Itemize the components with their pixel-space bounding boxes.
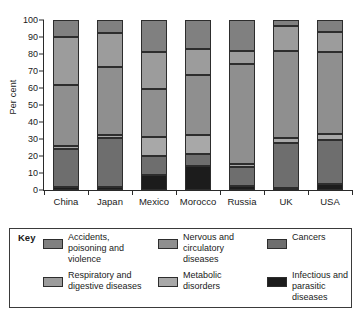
y-axis-tick-mark <box>39 122 44 123</box>
legend-item: Metabolic disorders <box>158 270 257 292</box>
y-axis-tick-mark <box>39 105 44 106</box>
bar-morocco <box>185 20 211 190</box>
y-axis-tick-mark <box>39 37 44 38</box>
bar-usa <box>317 20 343 190</box>
bar-segment <box>229 64 255 163</box>
bar-segment <box>97 135 123 138</box>
bar-segment <box>273 138 299 143</box>
legend-swatch <box>158 239 178 249</box>
bar-segment <box>97 187 123 190</box>
bar-japan <box>97 20 123 190</box>
legend-swatch <box>43 277 63 287</box>
bar-russia <box>229 20 255 190</box>
bar-segment <box>317 184 343 190</box>
bar-segment <box>185 75 211 135</box>
y-axis-tick-mark <box>39 156 44 157</box>
legend-swatch <box>158 277 178 287</box>
bar-segment <box>53 20 79 37</box>
legend-label: Nervous and circulatory diseases <box>183 232 257 266</box>
x-axis-tick-mark <box>220 190 221 195</box>
bar-segment <box>229 20 255 51</box>
x-axis-tick-mark <box>44 190 45 195</box>
bar-segment <box>53 149 79 186</box>
bar-segment <box>141 20 167 52</box>
bar-segment <box>141 137 167 156</box>
x-axis-tick-mark <box>176 190 177 195</box>
bar-segment <box>317 140 343 184</box>
bar-segment <box>141 175 167 190</box>
bar-segment <box>317 20 343 32</box>
legend-label: Accidents, poisoning and violence <box>68 232 142 266</box>
x-axis-tick-mark <box>352 190 353 195</box>
y-axis-tick-mark <box>39 71 44 72</box>
x-axis-tick-mark <box>132 190 133 195</box>
legend-label: Metabolic disorders <box>183 270 257 292</box>
bar-segment <box>185 20 211 49</box>
bar-segment <box>53 187 79 190</box>
bar-segment <box>97 138 123 187</box>
x-axis-line <box>43 190 352 191</box>
plot-area: 0102030405060708090100ChinaJapanMexicoMo… <box>44 20 352 190</box>
bar-segment <box>141 89 167 137</box>
bar-segment <box>97 33 123 67</box>
bar-segment <box>185 49 211 75</box>
x-axis-tick-mark <box>264 190 265 195</box>
bar-segment <box>53 85 79 145</box>
x-axis-tick-mark <box>308 190 309 195</box>
legend-title: Key <box>18 232 35 243</box>
bar-segment <box>317 52 343 134</box>
bar-segment <box>229 186 255 190</box>
bar-segment <box>317 32 343 52</box>
legend-swatch <box>43 239 63 249</box>
x-axis-tick-mark <box>88 190 89 195</box>
bar-segment <box>97 20 123 33</box>
legend-item: Accidents, poisoning and violence <box>43 232 142 266</box>
y-axis-tick-mark <box>39 173 44 174</box>
legend-item: Cancers <box>267 232 326 249</box>
y-axis-tick-mark <box>39 88 44 89</box>
legend-label: Respiratory and digestive diseases <box>68 270 142 292</box>
bar-segment <box>53 37 79 85</box>
bar-segment <box>273 143 299 188</box>
bar-segment <box>53 146 79 149</box>
bar-segment <box>273 51 299 139</box>
bar-segment <box>185 135 211 155</box>
legend-item: Infectious and parasitic diseases <box>267 270 351 304</box>
legend-item: Nervous and circulatory diseases <box>158 232 257 266</box>
y-axis-tick-mark <box>39 54 44 55</box>
bar-china <box>53 20 79 190</box>
stacked-bar-chart: Per cent 0102030405060708090100ChinaJapa… <box>0 0 361 222</box>
legend-label: Cancers <box>292 232 326 243</box>
bar-segment <box>141 156 167 175</box>
chart-figure: Per cent 0102030405060708090100ChinaJapa… <box>0 0 361 319</box>
bar-segment <box>97 67 123 135</box>
bar-segment <box>273 20 299 26</box>
bar-segment <box>229 51 255 65</box>
bar-segment <box>229 167 255 186</box>
legend-item: Respiratory and digestive diseases <box>43 270 142 292</box>
bar-mexico <box>141 20 167 190</box>
legend-box: Key Accidents, poisoning and violenceNer… <box>9 228 352 308</box>
legend-swatch <box>267 277 287 287</box>
bar-segment <box>185 154 211 166</box>
legend-label: Infectious and parasitic diseases <box>292 270 351 304</box>
x-axis-tick-label: USA <box>290 196 361 207</box>
bar-segment <box>141 52 167 89</box>
bar-segment <box>273 26 299 51</box>
bar-segment <box>185 166 211 190</box>
bar-uk <box>273 20 299 190</box>
bar-segment <box>229 164 255 167</box>
y-axis-tick-mark <box>39 139 44 140</box>
y-axis-tick-mark <box>39 20 44 21</box>
legend-swatch <box>267 239 287 249</box>
bar-segment <box>317 134 343 140</box>
